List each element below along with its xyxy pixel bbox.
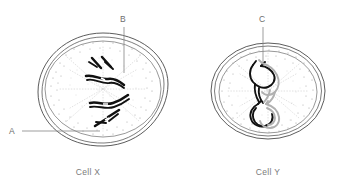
caption-cell-y: Cell Y (256, 167, 280, 177)
cell-y-bivalents (250, 60, 279, 128)
chromosome-2 (86, 76, 124, 88)
cell-division-figure: A B C Cell X Cell Y (0, 0, 340, 187)
caption-cell-x: Cell X (76, 167, 101, 177)
label-a: A (9, 126, 15, 136)
chromosome-4 (95, 110, 119, 126)
chromosome-3 (90, 95, 129, 108)
chromosome-1 (89, 57, 113, 69)
cell-y-group (211, 43, 325, 139)
leader-lines (22, 27, 263, 131)
cell-y-spindle (228, 53, 308, 129)
bivalent-2 (250, 101, 279, 128)
cell-x-group (38, 33, 168, 146)
bivalent-1 (250, 60, 279, 104)
label-c: C (259, 14, 265, 24)
diagram-canvas: A B C Cell X Cell Y (0, 0, 340, 187)
label-b: B (120, 14, 126, 24)
cell-x-chromosomes (86, 57, 129, 126)
